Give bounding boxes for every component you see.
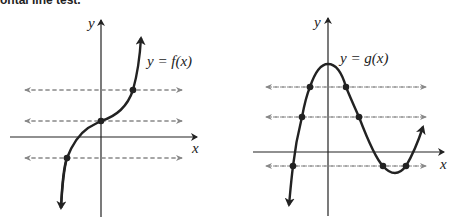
- graph-f: y x y = f(x): [10, 15, 199, 217]
- function-label-g: y = g(x): [338, 50, 388, 67]
- graph-g: y x y = g(x): [253, 14, 447, 216]
- x-axis-label-right: x: [439, 156, 447, 172]
- y-axis-label-left: y: [86, 15, 95, 31]
- function-label-f: y = f(x): [145, 53, 192, 70]
- horizontal-test-lines-right: [266, 87, 426, 166]
- y-axis-label-right: y: [312, 14, 321, 30]
- x-axis-label-left: x: [191, 140, 199, 156]
- intersection-points-left: [64, 87, 137, 162]
- figure-canvas: y x y = f(x) y x: [0, 0, 455, 224]
- horizontal-test-lines-left: [25, 90, 182, 158]
